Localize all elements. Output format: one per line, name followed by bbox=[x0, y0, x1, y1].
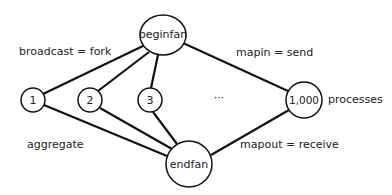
node-endfan-label: endfan bbox=[170, 158, 208, 171]
edge-beginfan-3 bbox=[151, 55, 158, 88]
edge-beginfan-2 bbox=[98, 52, 149, 91]
node-process-1000: 1,000 bbox=[286, 82, 322, 118]
node-beginfan: beginfan bbox=[139, 15, 187, 55]
annotation-broadcast: broadcast = fork bbox=[19, 45, 112, 58]
node-process-2-label: 2 bbox=[87, 94, 94, 107]
node-process-3: 3 bbox=[138, 88, 162, 112]
annotation-mapin: mapin = send bbox=[236, 46, 313, 59]
annotation-mapout: mapout = receive bbox=[240, 138, 339, 151]
annotation-processes: processes bbox=[328, 93, 383, 106]
node-endfan: endfan bbox=[166, 141, 212, 187]
ellipsis: ··· bbox=[214, 91, 225, 104]
annotation-aggregate: aggregate bbox=[27, 138, 84, 151]
node-beginfan-label: beginfan bbox=[139, 28, 187, 41]
node-process-1-label: 1 bbox=[30, 94, 37, 107]
fan-out-diagram: beginfan 1 2 3 1,000 endfan ··· broadcas… bbox=[0, 0, 392, 195]
node-process-3-label: 3 bbox=[147, 94, 154, 107]
node-process-1: 1 bbox=[21, 88, 45, 112]
node-process-1000-label: 1,000 bbox=[289, 94, 319, 106]
node-process-2: 2 bbox=[78, 88, 102, 112]
